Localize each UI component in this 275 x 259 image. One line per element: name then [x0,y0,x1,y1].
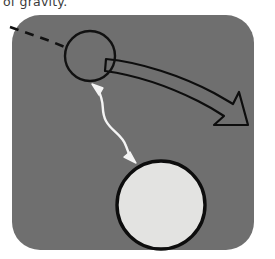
figure-screenshot: of gravity. [0,0,275,259]
large-circle-mass [117,161,205,249]
gravity-diagram-svg [0,0,275,259]
